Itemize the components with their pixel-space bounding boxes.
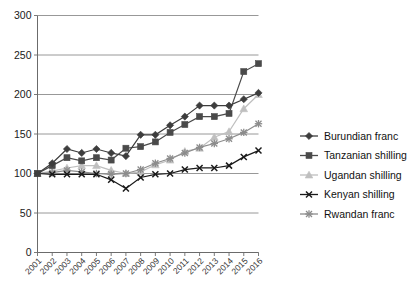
marker-star <box>181 149 188 156</box>
marker-square <box>167 129 173 135</box>
ytick-label-150: 150 <box>14 128 32 140</box>
marker-square <box>123 145 129 151</box>
ytick-label-250: 250 <box>14 49 32 61</box>
marker-star <box>152 160 159 167</box>
marker-diamond <box>152 131 159 138</box>
marker-diamond <box>78 149 85 156</box>
marker-square <box>108 157 114 163</box>
ytick-label-200: 200 <box>14 88 32 100</box>
marker-square <box>152 139 158 145</box>
marker-square <box>182 122 188 128</box>
gridlines-group: 050100150200250300 <box>14 9 259 258</box>
marker-star <box>196 144 203 151</box>
ytick-label-50: 50 <box>20 207 32 219</box>
legend-label: Rwandan franc <box>324 208 395 220</box>
ytick-label-0: 0 <box>26 246 32 258</box>
legend-item-burundian-franc[interactable]: Burundian franc <box>300 130 398 142</box>
ytick-label-300: 300 <box>14 9 32 21</box>
marker-cross <box>256 148 262 154</box>
marker-square <box>138 144 144 150</box>
marker-square <box>64 155 70 161</box>
marker-star <box>255 120 262 127</box>
marker-star <box>240 129 247 136</box>
legend-label: Kenyan shilling <box>324 188 395 200</box>
marker-square <box>306 153 312 159</box>
x-axis-labels-group: 2001200220032004200520062007200820092010… <box>23 253 265 277</box>
marker-star <box>63 167 70 174</box>
marker-star <box>122 170 129 177</box>
marker-star <box>166 155 173 162</box>
marker-star <box>211 140 218 147</box>
marker-star <box>225 135 232 142</box>
marker-square <box>197 114 203 120</box>
marker-triangle <box>225 128 233 135</box>
marker-star <box>305 210 312 217</box>
marker-square <box>256 61 262 67</box>
marker-cross <box>241 154 247 160</box>
marker-diamond <box>137 131 144 138</box>
legend-item-tanzanian-shilling[interactable]: Tanzanian shilling <box>300 149 407 161</box>
legend-item-ugandan-shilling[interactable]: Ugandan shilling <box>300 169 402 181</box>
marker-diamond <box>122 153 129 160</box>
legend-item-kenyan-shilling[interactable]: Kenyan shilling <box>300 188 395 200</box>
legend: Burundian francTanzanian shillingUgandan… <box>300 130 407 220</box>
marker-square <box>226 110 232 116</box>
legend-label: Ugandan shilling <box>324 169 402 181</box>
marker-square <box>79 158 85 164</box>
marker-square <box>211 114 217 120</box>
marker-star <box>137 166 144 173</box>
series-line <box>38 151 259 189</box>
series-tanzanian-shilling <box>35 61 262 177</box>
marker-diamond <box>305 132 312 139</box>
xtick-label-2016: 2016 <box>244 256 265 277</box>
marker-square <box>241 69 247 75</box>
ytick-label-100: 100 <box>14 167 32 179</box>
chart-canvas: 0501001502002503002001200220032004200520… <box>0 0 414 297</box>
marker-diamond <box>167 122 174 129</box>
marker-diamond <box>108 149 115 156</box>
marker-cross <box>123 186 129 192</box>
legend-label: Tanzanian shilling <box>324 149 407 161</box>
line-chart: 0501001502002503002001200220032004200520… <box>0 0 414 297</box>
marker-square <box>93 155 99 161</box>
legend-label: Burundian franc <box>324 130 398 142</box>
marker-diamond <box>93 145 100 152</box>
marker-diamond <box>240 96 247 103</box>
legend-item-rwandan-franc[interactable]: Rwandan franc <box>300 208 395 220</box>
marker-diamond <box>211 102 218 109</box>
series-line <box>38 64 259 174</box>
